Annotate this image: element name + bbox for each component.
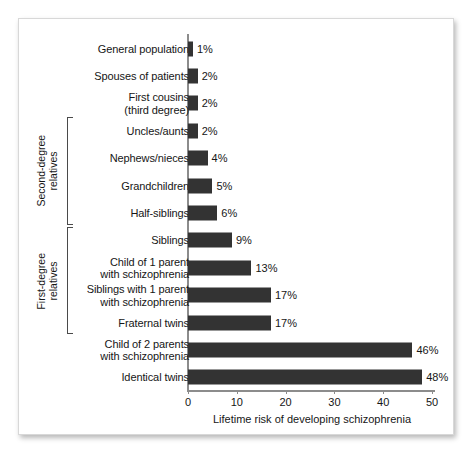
- x-axis-tick: [188, 390, 189, 394]
- bar-value-label: 17%: [275, 289, 297, 301]
- x-axis-title: Lifetime risk of developing schizophreni…: [187, 413, 437, 425]
- bar-category-label: Child of 2 parents with schizophrenia: [37, 337, 189, 362]
- x-axis-tick-label: 40: [377, 396, 389, 408]
- bar-row: Child of 2 parents with schizophrenia46%: [19, 335, 455, 364]
- bar-row: Uncles/aunts2%: [19, 116, 455, 145]
- bar-value-label: 4%: [212, 152, 228, 164]
- bar-row: Siblings9%: [19, 226, 455, 255]
- bar-row: General population1%: [19, 34, 455, 63]
- bar-value-label: 2%: [202, 97, 218, 109]
- bar-category-label: Nephews/nieces: [37, 152, 189, 164]
- bar: [188, 233, 232, 248]
- x-axis-tick-label: 30: [328, 396, 340, 408]
- bar-row: Child of 1 parent with schizophrenia13%: [19, 253, 455, 282]
- bar: [188, 370, 422, 385]
- bar-row: Identical twins48%: [19, 363, 455, 392]
- bar-row: First cousins (third degree)2%: [19, 89, 455, 118]
- bar: [188, 315, 271, 330]
- x-axis-tick: [432, 390, 433, 394]
- group-label: First-degree relatives: [35, 227, 59, 335]
- x-axis-tick-label: 10: [231, 396, 243, 408]
- bar: [188, 178, 212, 193]
- bar: [188, 342, 412, 357]
- bar-value-label: 1%: [197, 43, 213, 55]
- bar-value-label: 48%: [426, 371, 448, 383]
- bar-chart: General population1%Spouses of patients2…: [19, 19, 455, 436]
- group-label: Second-degree relatives: [35, 117, 59, 225]
- bar-category-label: Half-siblings: [37, 207, 189, 219]
- bar: [188, 151, 208, 166]
- x-axis-tick: [237, 390, 238, 394]
- bar-value-label: 17%: [275, 317, 297, 329]
- bar-value-label: 6%: [221, 207, 237, 219]
- bar-category-label: Fraternal twins: [37, 316, 189, 328]
- bar-row: Nephews/nieces4%: [19, 144, 455, 173]
- group-bracket: [67, 227, 73, 335]
- bar-value-label: 2%: [202, 70, 218, 82]
- bar-value-label: 46%: [416, 344, 438, 356]
- x-axis-tick: [383, 390, 384, 394]
- bar-row: Half-siblings6%: [19, 198, 455, 227]
- x-axis-tick: [286, 390, 287, 394]
- bar: [188, 68, 198, 83]
- bar-value-label: 13%: [255, 262, 277, 274]
- bar-row: Spouses of patients2%: [19, 61, 455, 90]
- bar-category-label: Spouses of patients: [37, 70, 189, 82]
- bar: [188, 96, 198, 111]
- bar-category-label: Child of 1 parent with schizophrenia: [37, 255, 189, 280]
- x-axis-tick: [334, 390, 335, 394]
- x-axis-tick-label: 20: [279, 396, 291, 408]
- group-bracket: [67, 117, 73, 225]
- bar-value-label: 5%: [216, 180, 232, 192]
- bar-category-label: Identical twins: [37, 371, 189, 383]
- x-axis-tick-label: 0: [185, 396, 191, 408]
- bar: [188, 288, 271, 303]
- bar: [188, 123, 198, 138]
- bar-category-label: Grandchildren: [37, 179, 189, 191]
- figure-frame: General population1%Spouses of patients2…: [18, 18, 454, 435]
- bar-category-label: General population: [37, 42, 189, 54]
- x-axis-tick-label: 50: [426, 396, 438, 408]
- bar-row: Fraternal twins17%: [19, 308, 455, 337]
- bar-value-label: 9%: [236, 234, 252, 246]
- bar-row: Siblings with 1 parent with schizophreni…: [19, 281, 455, 310]
- bar: [188, 260, 251, 275]
- bar-category-label: First cousins (third degree): [37, 91, 189, 116]
- bar-category-label: Siblings with 1 parent with schizophreni…: [37, 283, 189, 308]
- bar: [188, 205, 217, 220]
- bar: [188, 41, 193, 56]
- bar-category-label: Siblings: [37, 234, 189, 246]
- bar-value-label: 2%: [202, 125, 218, 137]
- bar-row: Grandchildren5%: [19, 171, 455, 200]
- bar-category-label: Uncles/aunts: [37, 124, 189, 136]
